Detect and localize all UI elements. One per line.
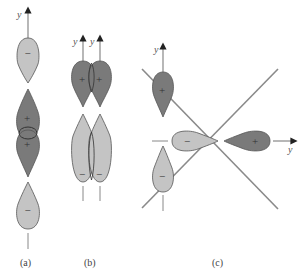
negative-lobe [153, 146, 174, 192]
panel-label: (c) [212, 257, 223, 269]
sign-label: − [25, 47, 31, 59]
panel-a: y − + + − (a) [16, 9, 39, 269]
sign-label: + [159, 84, 165, 96]
sign-label: + [252, 135, 258, 147]
orbital-overlap-diagram: y − + + − (a) y y + + − − [0, 0, 308, 276]
y-axis-label: y [153, 44, 159, 55]
negative-lobe [17, 38, 39, 83]
sign-label: + [79, 73, 85, 85]
panel-label: (a) [20, 257, 31, 269]
positive-lobe [224, 131, 270, 151]
panel-c: y + − − + y (c) [142, 44, 294, 269]
sign-label: − [159, 170, 165, 182]
sign-label: − [96, 168, 102, 180]
sign-label: − [79, 168, 85, 180]
sign-label: + [24, 112, 30, 124]
y-axis-label: y [72, 36, 78, 47]
y-axis-label: y [16, 9, 22, 20]
sign-label: − [184, 135, 190, 147]
panel-b: y y + + − − (b) [72, 36, 112, 269]
panel-label: (b) [84, 257, 96, 269]
sign-label: − [25, 204, 31, 216]
sign-label: + [96, 73, 102, 85]
horizontal-axis-label: y [287, 144, 293, 155]
negative-lobe [172, 131, 218, 151]
y-axis-label: y [89, 36, 95, 47]
sign-label: + [24, 138, 30, 150]
